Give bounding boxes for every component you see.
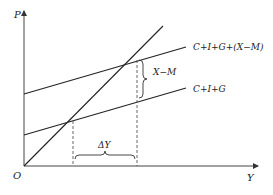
y-axis-label: P bbox=[13, 9, 21, 20]
x-axis-label: Y bbox=[247, 172, 255, 183]
aggregate-demand-closed-label: C+I+G bbox=[193, 84, 226, 94]
aggregate-demand-closed-line bbox=[24, 88, 186, 135]
aggregate-demand-open-label: C+I+G+(X−M) bbox=[193, 42, 264, 52]
origin-label: O bbox=[13, 170, 21, 181]
net-exports-brace bbox=[139, 60, 147, 98]
income-change-brace bbox=[75, 151, 135, 159]
diagram-canvas: P Y O C+I+G+(X−M) C+I+G X−M ΔY bbox=[0, 0, 273, 195]
net-exports-label: X−M bbox=[152, 67, 177, 77]
income-change-label: ΔY bbox=[97, 140, 111, 150]
